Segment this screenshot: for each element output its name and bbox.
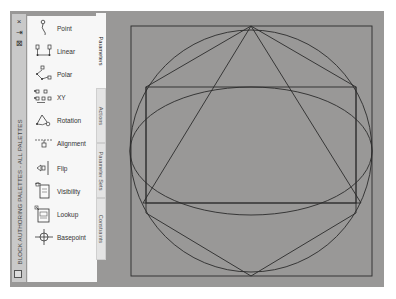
hexagon-shape[interactable] bbox=[146, 26, 356, 276]
tab-constraints[interactable]: Constraints bbox=[96, 198, 106, 260]
rotation-parameter-icon bbox=[33, 110, 55, 130]
tool-label: Point bbox=[57, 25, 72, 32]
palette-content: Point Linear Polar XY bbox=[27, 16, 97, 282]
tool-flip[interactable]: Flip bbox=[28, 157, 97, 179]
tab-label: Parameters bbox=[98, 36, 104, 65]
tool-point[interactable]: Point bbox=[28, 17, 97, 39]
tool-label: Lookup bbox=[57, 211, 78, 218]
tool-label: Rotation bbox=[57, 117, 81, 124]
circle-shape[interactable] bbox=[130, 30, 372, 272]
alignment-parameter-icon bbox=[33, 133, 55, 153]
tab-label: Constraints bbox=[98, 215, 104, 243]
close-icon[interactable]: × bbox=[14, 17, 24, 27]
tool-xy[interactable]: XY bbox=[28, 86, 97, 108]
tab-parameter-sets[interactable]: Parameter Sets bbox=[96, 143, 106, 198]
lookup-parameter-icon bbox=[33, 204, 55, 224]
tab-actions[interactable]: Actions bbox=[96, 88, 106, 143]
tool-label: Visibility bbox=[57, 188, 80, 195]
basepoint-parameter-icon bbox=[33, 227, 55, 247]
palette-title: BLOCK AUTHORING PALETTES - ALL PALETTES bbox=[13, 32, 25, 262]
tool-linear[interactable]: Linear bbox=[28, 40, 97, 62]
tool-lookup[interactable]: Lookup bbox=[28, 203, 97, 225]
tool-label: Flip bbox=[57, 165, 67, 172]
palette-menu-icon[interactable] bbox=[14, 270, 22, 278]
tool-basepoint[interactable]: Basepoint bbox=[28, 226, 97, 248]
tool-visibility[interactable]: Visibility bbox=[28, 180, 97, 202]
palette-tabs: Parameters Actions Parameter Sets Constr… bbox=[96, 13, 107, 263]
xy-parameter-icon bbox=[33, 87, 55, 107]
tool-alignment[interactable]: Alignment bbox=[28, 132, 97, 154]
tool-rotation[interactable]: Rotation bbox=[28, 109, 97, 131]
tool-label: Basepoint bbox=[57, 234, 86, 241]
flip-parameter-icon bbox=[33, 158, 55, 178]
linear-parameter-icon bbox=[33, 41, 55, 61]
tool-label: Polar bbox=[57, 71, 72, 78]
tab-label: Parameter Sets bbox=[98, 151, 104, 190]
tool-label: Linear bbox=[57, 48, 75, 55]
triangle-shape[interactable] bbox=[143, 26, 361, 203]
palette-titlebar[interactable]: × ⇥ ⊠ BLOCK AUTHORING PALETTES - ALL PAL… bbox=[12, 14, 26, 282]
tool-label: XY bbox=[57, 94, 66, 101]
palette-title-text: BLOCK AUTHORING PALETTES - ALL PALETTES bbox=[16, 35, 23, 265]
tool-polar[interactable]: Polar bbox=[28, 63, 97, 85]
point-parameter-icon bbox=[33, 18, 55, 38]
polar-parameter-icon bbox=[33, 64, 55, 84]
ellipse-shape[interactable] bbox=[130, 87, 372, 215]
tool-label: Alignment bbox=[57, 140, 86, 147]
tab-parameters[interactable]: Parameters bbox=[96, 13, 106, 88]
tab-label: Actions bbox=[98, 106, 104, 124]
visibility-parameter-icon bbox=[33, 181, 55, 201]
